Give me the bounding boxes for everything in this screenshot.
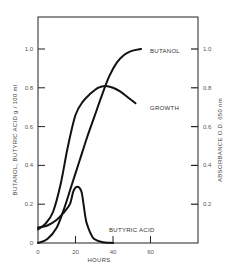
label-butyric-acid: BUTYRIC ACID [109, 227, 155, 233]
fermentation-chart: 020406000.20.40.60.81.00.20.40.60.81.0 B… [0, 0, 238, 274]
x-tick-label: 0 [36, 249, 40, 255]
y-left-tick-label: 0.2 [25, 201, 34, 207]
x-axis-title: HOURS [87, 257, 110, 263]
y-right-tick-label: 1.0 [203, 46, 212, 52]
y-left-tick-label: 0.6 [25, 124, 34, 130]
y-axis-right-title: ABSORBANCE O.D. 650 nm [217, 98, 223, 182]
data-curves [38, 49, 141, 243]
label-butanol: BUTANOL [150, 48, 180, 54]
x-tick-label: 60 [147, 249, 154, 255]
curve-butyric-acid [38, 187, 113, 243]
x-tick-label: 20 [72, 249, 79, 255]
y-right-tick-label: 0.2 [203, 201, 212, 207]
curve-butanol [38, 49, 141, 243]
y-right-tick-label: 0.4 [203, 162, 212, 168]
y-right-tick-label: 0.8 [203, 85, 212, 91]
x-tick-label: 40 [110, 249, 117, 255]
y-right-tick-label: 0.6 [203, 124, 212, 130]
y-left-tick-label: 0.8 [25, 85, 34, 91]
y-axis-left-title: BUTANOL, BUTYRIC ACID g / 100 ml [12, 85, 18, 196]
curve-growth [38, 86, 136, 230]
y-left-tick-label: 1.0 [25, 46, 34, 52]
label-growth: GROWTH [150, 105, 179, 111]
y-left-tick-label: 0 [30, 240, 34, 246]
y-left-tick-label: 0.4 [25, 162, 34, 168]
